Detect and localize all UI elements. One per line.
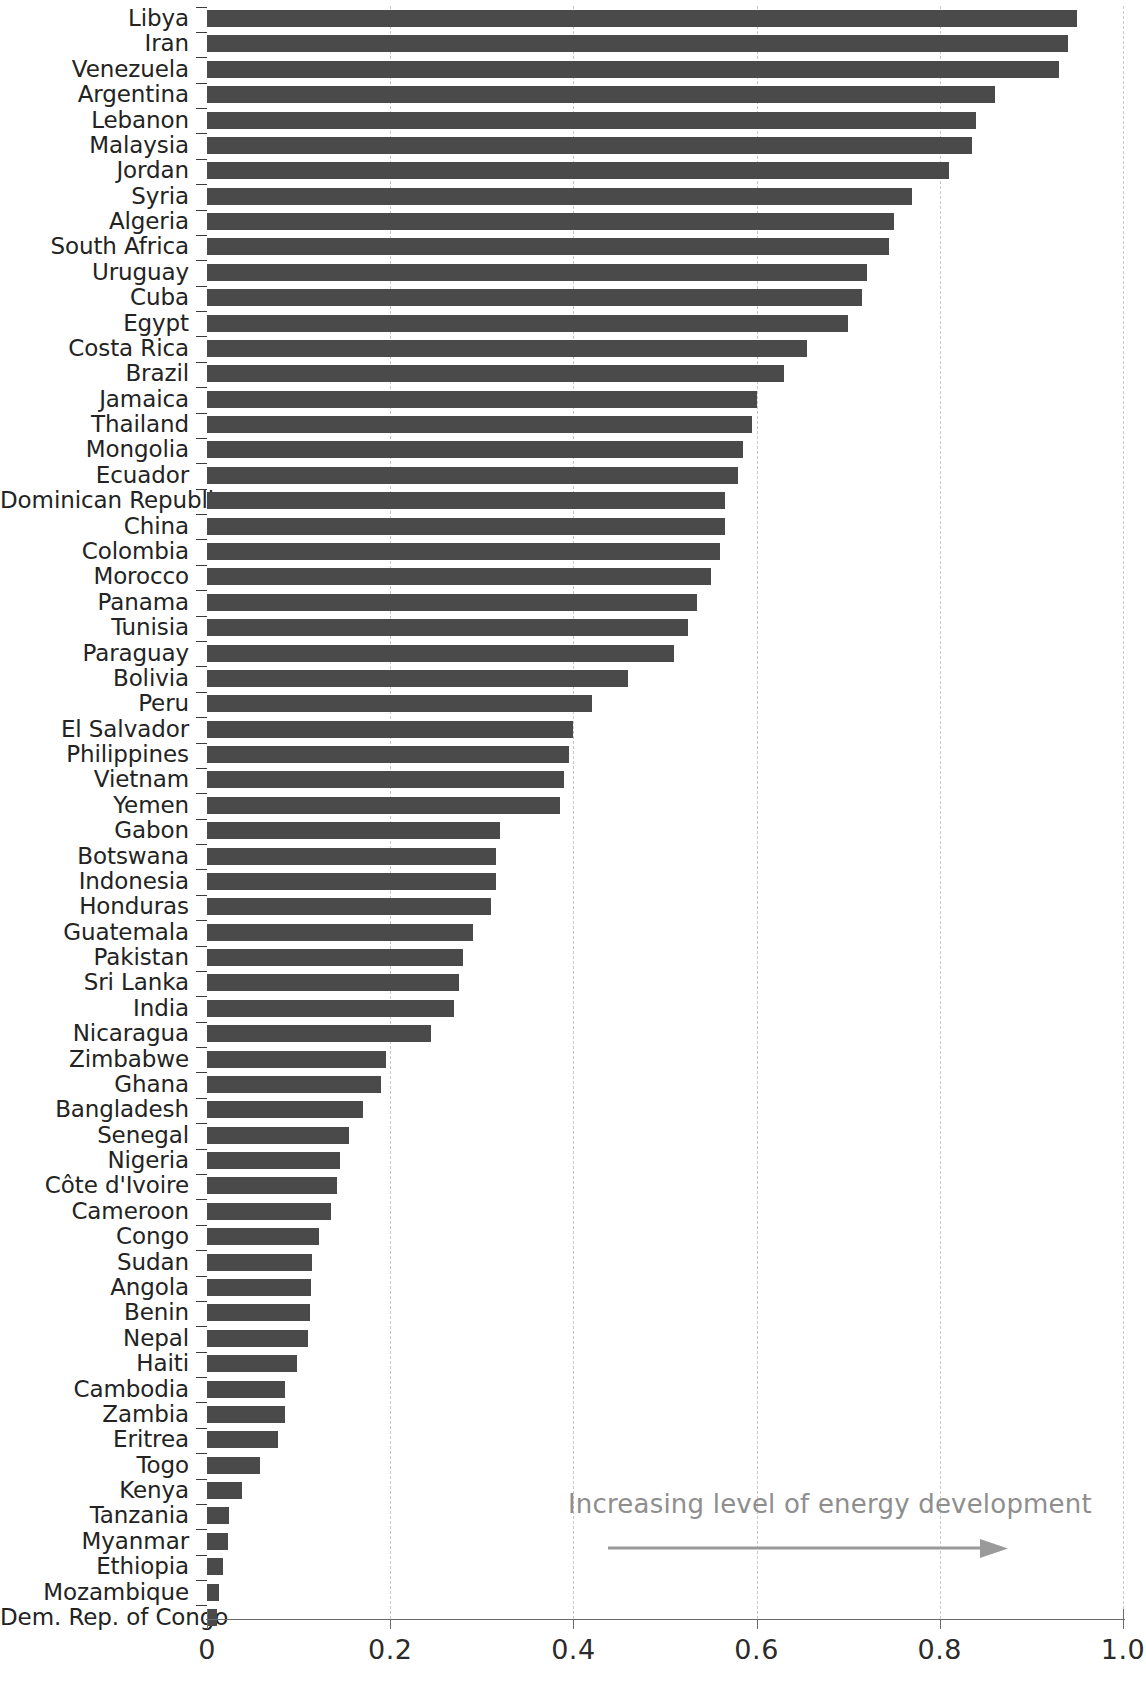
category-tick [196, 1580, 207, 1581]
bar [207, 924, 473, 941]
bar-row: Benin [0, 1300, 1146, 1325]
right-arrow-icon [608, 1537, 1008, 1561]
category-tick [196, 184, 207, 185]
axis-tick [573, 1619, 574, 1629]
bar [207, 162, 949, 179]
bar-row: Honduras [0, 894, 1146, 919]
category-label: Ecuador [0, 463, 189, 488]
energy-development-bar-chart: LibyaIranVenezuelaArgentinaLebanonMalays… [0, 0, 1146, 1686]
category-tick [196, 438, 207, 439]
bar [207, 289, 862, 306]
category-tick [196, 32, 207, 33]
category-label: Venezuela [0, 57, 189, 82]
bar-row: Bolivia [0, 666, 1146, 691]
category-tick [196, 387, 207, 388]
category-label: Cameroon [0, 1199, 189, 1224]
bar [207, 1584, 219, 1601]
axis-tick [390, 1619, 391, 1629]
axis-tick [757, 1619, 758, 1629]
category-tick [196, 869, 207, 870]
category-label: Indonesia [0, 869, 189, 894]
bar-row: Mozambique [0, 1580, 1146, 1605]
category-tick [196, 1377, 207, 1378]
category-tick [196, 971, 207, 972]
bar-row: Nepal [0, 1326, 1146, 1351]
category-label: Lebanon [0, 108, 189, 133]
category-label: Dem. Rep. of Congo [0, 1605, 189, 1630]
bar [207, 1127, 349, 1144]
bar-row: Libya [0, 6, 1146, 31]
axis-tick [940, 1619, 941, 1629]
bar [207, 949, 463, 966]
category-tick [196, 793, 207, 794]
bar-row: India [0, 996, 1146, 1021]
bar [207, 365, 784, 382]
bar-row: Ghana [0, 1072, 1146, 1097]
category-label: Senegal [0, 1123, 189, 1148]
category-tick [196, 590, 207, 591]
category-label: Gabon [0, 818, 189, 843]
category-label: Mongolia [0, 437, 189, 462]
category-label: Sudan [0, 1250, 189, 1275]
category-tick [196, 1504, 207, 1505]
category-tick [196, 920, 207, 921]
chart-annotation: Increasing level of energy development [568, 1489, 1028, 1519]
category-label: Dominican Republic [0, 488, 189, 513]
axis-tick [1123, 1619, 1124, 1629]
bar [207, 1177, 337, 1194]
bar [207, 416, 752, 433]
category-label: Cambodia [0, 1377, 189, 1402]
category-tick [196, 1123, 207, 1124]
category-label: Nicaragua [0, 1021, 189, 1046]
bar-row: Zambia [0, 1402, 1146, 1427]
category-label: Costa Rica [0, 336, 189, 361]
bar-row: Brazil [0, 361, 1146, 386]
bar-row: Ecuador [0, 463, 1146, 488]
bar [207, 238, 889, 255]
bar-row: Sudan [0, 1250, 1146, 1275]
bar [207, 1355, 297, 1372]
category-label: South Africa [0, 234, 189, 259]
category-tick [196, 1098, 207, 1099]
bar-row: Uruguay [0, 260, 1146, 285]
bar [207, 1406, 285, 1423]
category-label: Nigeria [0, 1148, 189, 1173]
bar [207, 1228, 319, 1245]
bar [207, 822, 500, 839]
category-tick [196, 1326, 207, 1327]
category-tick [196, 1529, 207, 1530]
axis-line [206, 1619, 1125, 1620]
bar [207, 188, 912, 205]
category-tick [196, 1149, 207, 1150]
category-label: Syria [0, 184, 189, 209]
bar [207, 1254, 312, 1271]
bar [207, 1457, 260, 1474]
category-label: Yemen [0, 793, 189, 818]
bar-row: El Salvador [0, 717, 1146, 742]
category-label: Iran [0, 31, 189, 56]
bar-row: Jamaica [0, 387, 1146, 412]
bar-row: Dominican Republic [0, 488, 1146, 513]
bar [207, 721, 573, 738]
category-tick [196, 514, 207, 515]
category-tick [196, 819, 207, 820]
category-tick [196, 1352, 207, 1353]
bar-row: Togo [0, 1453, 1146, 1478]
bar-row: Congo [0, 1224, 1146, 1249]
category-label: Kenya [0, 1478, 189, 1503]
category-label: Malaysia [0, 133, 189, 158]
category-label: Pakistan [0, 945, 189, 970]
category-label: Botswana [0, 844, 189, 869]
category-tick [196, 1301, 207, 1302]
category-tick [196, 463, 207, 464]
bar-row: Philippines [0, 742, 1146, 767]
bar-row: Pakistan [0, 945, 1146, 970]
bar-row: Panama [0, 590, 1146, 615]
category-tick [196, 1072, 207, 1073]
bar-row: Zimbabwe [0, 1047, 1146, 1072]
bar [207, 1076, 381, 1093]
category-tick [196, 1428, 207, 1429]
bar [207, 746, 569, 763]
category-tick [196, 362, 207, 363]
bar-row: Jordan [0, 158, 1146, 183]
